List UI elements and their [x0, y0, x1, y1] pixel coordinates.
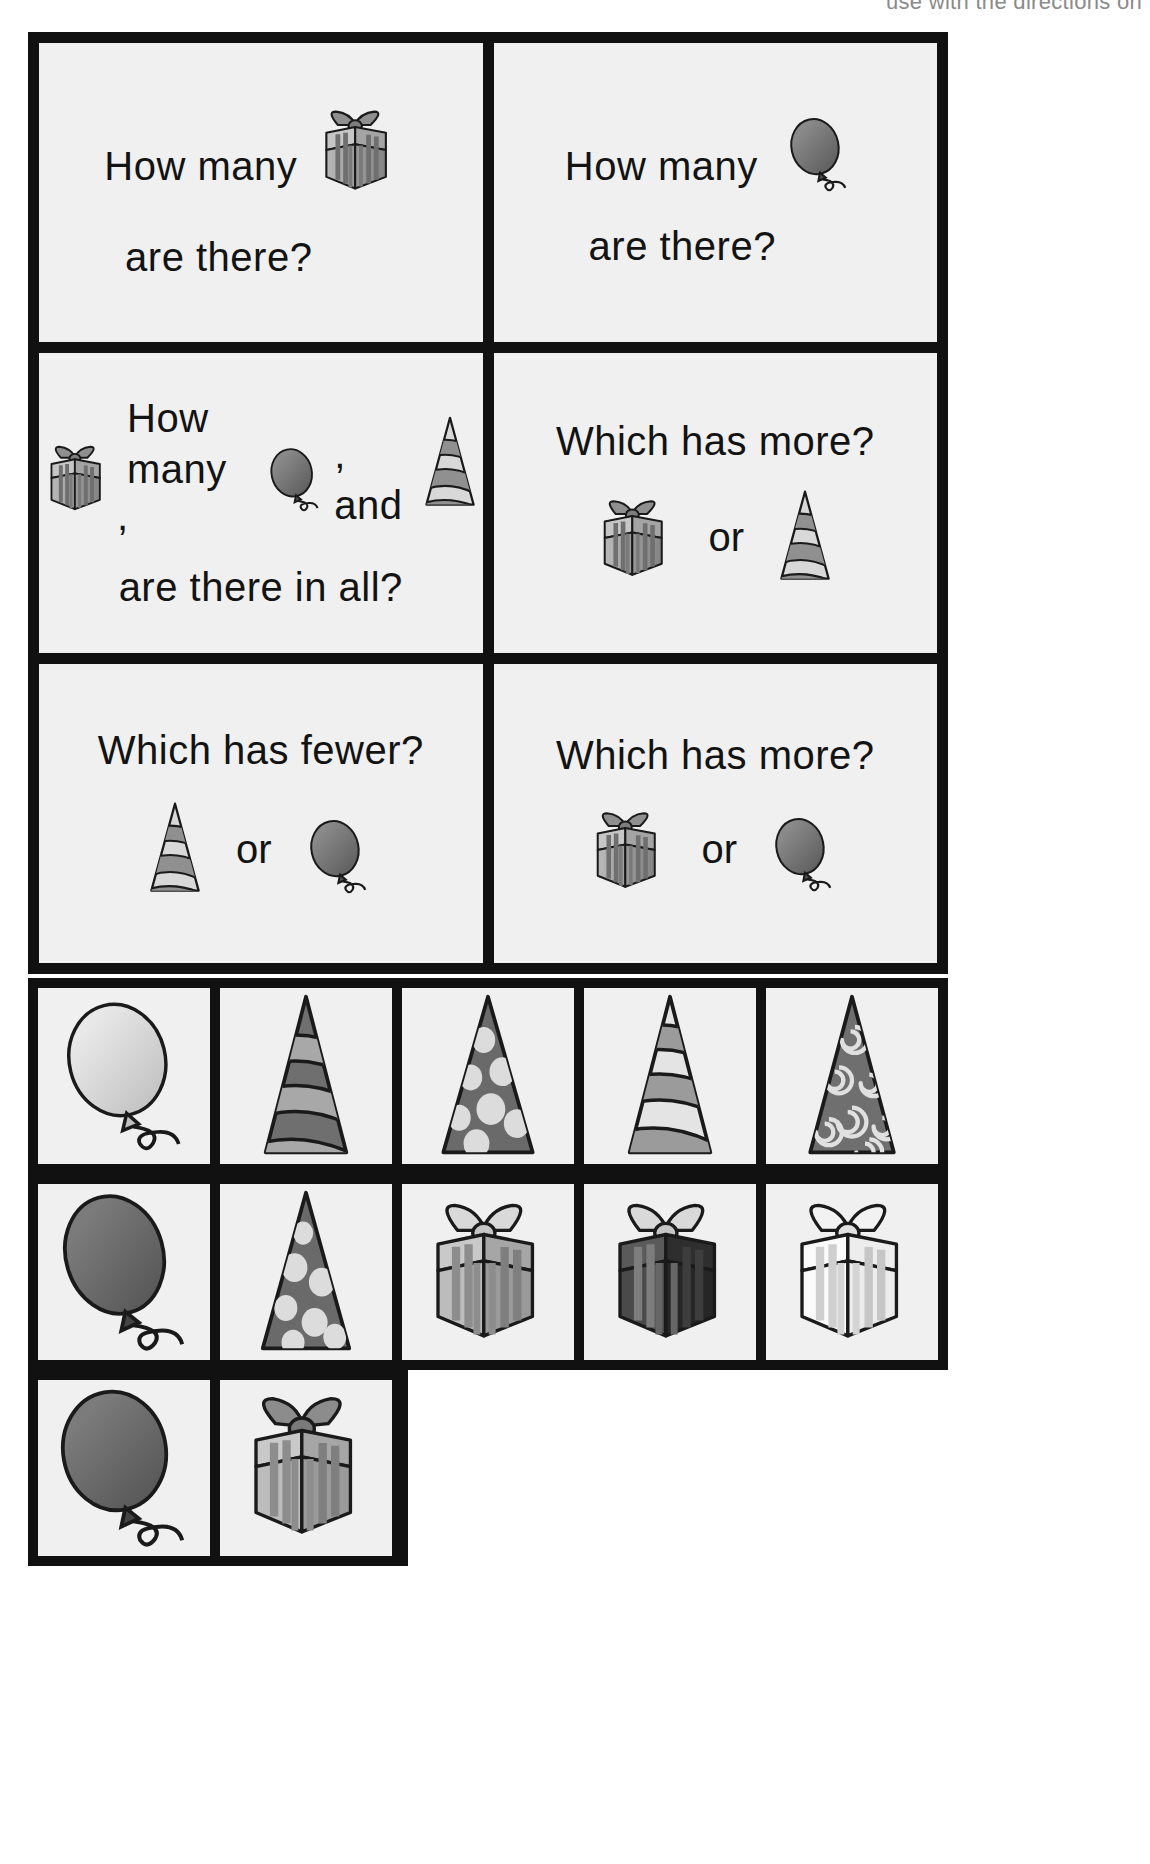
card1-line2: are there?: [125, 232, 312, 283]
gift-icon: [39, 439, 117, 517]
balloon-icon: [49, 996, 199, 1156]
picture-card-gift-gray-2[interactable]: [220, 1380, 392, 1556]
card4-or-label: or: [708, 515, 744, 560]
party-hat-icon: [770, 486, 840, 590]
worksheet-page: use with the directions on: [0, 0, 1150, 1864]
picture-card-row-2: [28, 1174, 948, 1370]
picture-card-gift-white[interactable]: [766, 1184, 938, 1360]
card2-line1: How many: [565, 141, 758, 192]
card4-title: Which has more?: [556, 416, 875, 467]
header-cutoff-text: use with the directions on: [886, 0, 1142, 15]
question-card-block: How many: [28, 32, 948, 974]
gift-icon: [590, 492, 682, 584]
picture-card-hat-dots-dark[interactable]: [402, 988, 574, 1164]
gift-icon: [583, 804, 675, 896]
card3-how-many: How many: [127, 393, 254, 495]
party-hat-icon: [245, 1187, 367, 1357]
picture-card-hat-striped-light[interactable]: [584, 988, 756, 1164]
picture-card-balloon-dark[interactable]: [38, 1184, 210, 1360]
balloon-icon: [763, 813, 847, 897]
card6-or-label: or: [701, 827, 737, 872]
balloon-icon: [49, 1190, 199, 1355]
card3-comma-and: , and: [334, 429, 402, 531]
picture-card-balloon-light[interactable]: [38, 988, 210, 1164]
card3-in-all: are there in all?: [119, 562, 403, 613]
card3-comma-1: ,: [117, 491, 129, 542]
party-hat-icon: [792, 991, 912, 1161]
question-card-how-many-gift[interactable]: How many: [39, 43, 483, 342]
card2-line2: are there?: [589, 221, 776, 272]
gift-icon: [311, 102, 407, 198]
picture-card-gift-black[interactable]: [584, 1184, 756, 1360]
question-card-how-many-all-three[interactable]: How many , , and: [39, 353, 483, 652]
picture-card-hat-striped-dark[interactable]: [220, 988, 392, 1164]
party-hat-icon: [425, 991, 551, 1161]
picture-card-hat-swirls-dark[interactable]: [766, 988, 938, 1164]
picture-card-balloon-dark-2[interactable]: [38, 1380, 210, 1556]
party-hat-icon: [247, 991, 365, 1161]
picture-card-grid: [28, 978, 948, 1838]
picture-card-gift-gray[interactable]: [402, 1184, 574, 1360]
card5-title: Which has fewer?: [98, 725, 424, 776]
card5-or-label: or: [236, 827, 272, 872]
balloon-icon: [778, 113, 862, 197]
question-card-which-has-more-gift-balloon[interactable]: Which has more?: [494, 664, 938, 963]
party-hat-icon: [417, 412, 483, 516]
gift-icon: [418, 1197, 558, 1347]
picture-card-row-1: [28, 978, 948, 1174]
question-card-which-has-fewer-hat-balloon[interactable]: Which has fewer?: [39, 664, 483, 963]
party-hat-icon: [611, 991, 729, 1161]
balloon-icon: [49, 1386, 199, 1551]
gift-icon: [782, 1197, 922, 1347]
balloon-icon: [260, 444, 332, 516]
gift-icon: [236, 1393, 376, 1543]
question-card-how-many-balloon[interactable]: How many are there?: [494, 43, 938, 342]
card1-line1: How many: [104, 141, 297, 192]
page-header-strip: use with the directions on: [0, 0, 1150, 18]
gift-icon: [600, 1197, 740, 1347]
question-card-which-has-more-gift-hat[interactable]: Which has more?: [494, 353, 938, 652]
balloon-icon: [298, 815, 382, 899]
picture-card-hat-dots-dark-2[interactable]: [220, 1184, 392, 1360]
card6-title: Which has more?: [556, 730, 875, 781]
party-hat-icon: [140, 798, 210, 902]
picture-card-row-3: [28, 1370, 408, 1566]
